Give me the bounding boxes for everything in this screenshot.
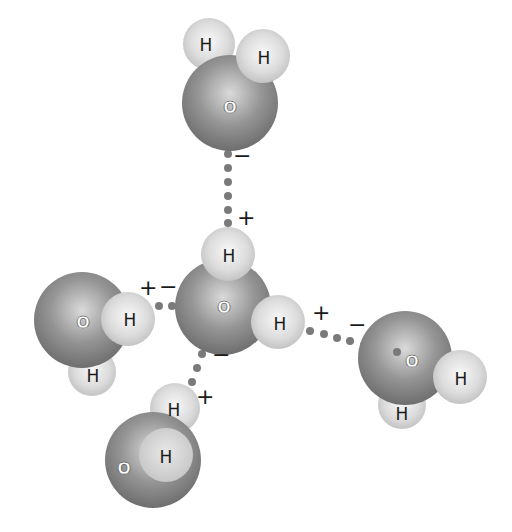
hydrogen-bond-left (155, 302, 176, 310)
negative-charge: − (233, 143, 251, 168)
oxygen-label: O (217, 298, 231, 317)
hydrogen-label: H (274, 314, 287, 334)
hydrogen-label: H (396, 404, 409, 424)
water-molecule-left: O H H (34, 272, 155, 396)
water-molecule-center: H O H (175, 227, 305, 355)
negative-charge: − (159, 274, 177, 299)
water-hydrogen-bond-diagram: H H O O H H H O H O H H H H O (0, 0, 512, 532)
hydrogen-label: H (258, 48, 271, 68)
hydrogen-label: H (124, 310, 137, 330)
hydrogen-label: H (455, 369, 468, 389)
positive-charge: + (196, 384, 214, 409)
water-molecule-top: H H O (182, 18, 290, 151)
negative-charge: − (348, 312, 366, 337)
oxygen-label: O (405, 352, 419, 371)
hydrogen-label: H (160, 447, 173, 467)
hydrogen-label: H (200, 35, 213, 55)
hydrogen-bond-top (224, 150, 232, 227)
positive-charge: + (139, 275, 157, 300)
hydrogen-label: H (87, 366, 100, 386)
negative-charge: − (212, 342, 230, 367)
hydrogen-label: H (223, 246, 236, 266)
oxygen-label: O (223, 98, 237, 117)
oxygen-label: O (76, 313, 90, 332)
bond-dot (393, 348, 401, 356)
oxygen-label: O (117, 459, 131, 478)
positive-charge: + (237, 205, 255, 230)
positive-charge: + (312, 300, 330, 325)
water-molecule-bottom: H H O (105, 383, 201, 508)
water-molecule-right: O H H (358, 311, 487, 429)
hydrogen-label: H (168, 400, 181, 420)
